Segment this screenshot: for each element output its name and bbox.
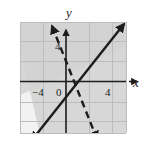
x-tick-label-negative-four: −4 [32,86,44,98]
graph-figure: −4 0 4 4 y x [0,0,144,152]
y-axis-label: y [64,5,72,20]
origin-label: 0 [56,86,62,98]
coordinate-plane-svg: −4 0 4 4 y x [0,0,144,152]
x-axis-label: x [132,75,139,90]
x-tick-label-four: 4 [105,86,111,98]
y-tick-label-four: 4 [55,40,61,52]
